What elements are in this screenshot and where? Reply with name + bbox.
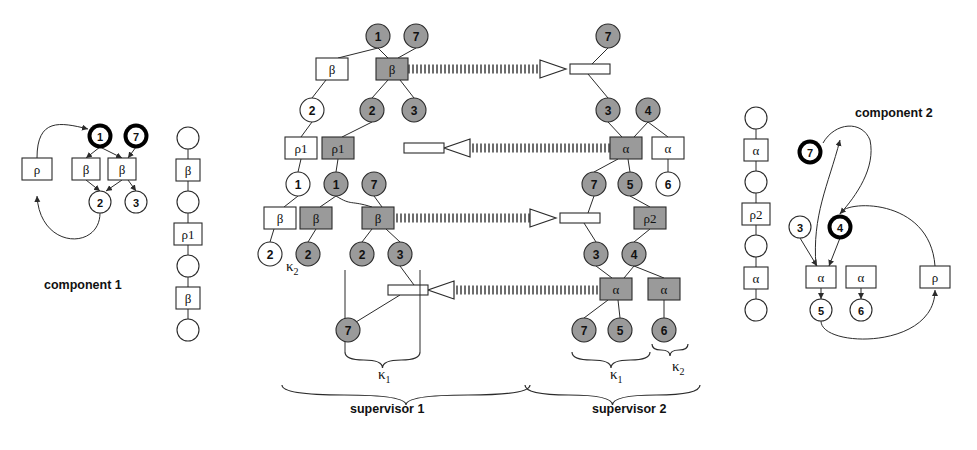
svg-text:ρ1: ρ1 <box>182 227 195 242</box>
graph-node-s1-n7-gray[interactable]: 7 <box>362 172 386 196</box>
graph-node-s1-n1-white[interactable]: 1 <box>286 172 310 196</box>
graph-node-s2-n7-top[interactable]: 7 <box>596 24 620 48</box>
svg-text:β: β <box>277 211 284 226</box>
graph-box-c2-alpha-left[interactable]: α <box>806 266 836 288</box>
graph-box-s1-beta-white-bot[interactable]: β <box>264 207 296 229</box>
graph-node-s2-n7-low[interactable]: 7 <box>572 318 596 342</box>
graph-box-s1-beta-gray-mid[interactable]: β <box>362 207 394 229</box>
svg-text:4: 4 <box>631 248 638 262</box>
graph-box-s1-rho1-gray[interactable]: ρ1 <box>322 137 354 159</box>
svg-text:β: β <box>313 211 320 226</box>
chain-right-circle-0[interactable] <box>745 107 767 129</box>
svg-text:7: 7 <box>605 30 612 44</box>
graph-node-s1-n1-gray[interactable]: 1 <box>324 172 348 196</box>
graph-node-s2-n6-low[interactable]: 6 <box>652 318 676 342</box>
port-port-s2-top[interactable] <box>570 64 610 74</box>
graph-box-s2-alpha-gray-bot2[interactable]: α <box>648 278 680 300</box>
graph-node-s1-n1-top[interactable]: 1 <box>366 24 390 48</box>
chain-left-circle-0[interactable] <box>177 127 199 149</box>
graph-node-s1-n2-gray[interactable]: 2 <box>360 98 384 122</box>
svg-text:β: β <box>375 211 382 226</box>
graph-node-s2-n6-white[interactable]: 6 <box>656 172 680 196</box>
graph-node-s1-n2-gray-bot[interactable]: 2 <box>296 242 320 266</box>
chain-right-circle-6[interactable] <box>745 299 767 321</box>
graph-node-s1-n3-gray[interactable]: 3 <box>402 98 426 122</box>
svg-text:α: α <box>858 270 865 285</box>
graph-box-s2-rho2-gray[interactable]: ρ2 <box>634 207 666 229</box>
port-port-s2-mid[interactable] <box>560 213 600 223</box>
svg-text:β: β <box>389 62 396 77</box>
graph-box-s1-beta-gray-bot[interactable]: β <box>300 207 332 229</box>
diagram-canvas: βρ1βαρ2αρββ1723ββρ1ρ1βββ1722311722237ααρ… <box>0 0 977 450</box>
svg-text:β: β <box>185 291 192 306</box>
chain-right: αρ2α <box>742 107 770 321</box>
graph-node-s2-n4-top[interactable]: 4 <box>636 98 660 122</box>
chain-left-circle-4[interactable] <box>177 255 199 277</box>
svg-text:5: 5 <box>818 305 824 317</box>
caption-component-2: component 2 <box>855 106 933 120</box>
graph-node-s2-n7-mid[interactable]: 7 <box>582 172 606 196</box>
graph-box-c2-alpha-right[interactable]: α <box>846 266 876 288</box>
graph-node-node-7[interactable]: 7 <box>124 124 149 149</box>
svg-text:α: α <box>623 141 630 156</box>
graph-node-s1-n2-white[interactable]: 2 <box>300 98 324 122</box>
graph-node-c2-node-5[interactable]: 5 <box>810 299 832 321</box>
svg-text:1: 1 <box>333 178 340 192</box>
svg-text:β: β <box>119 162 126 177</box>
graph-node-node-1[interactable]: 1 <box>88 124 113 149</box>
caption-supervisor-1: supervisor 1 <box>350 402 424 416</box>
graph-node-s1-n3-gray-low[interactable]: 3 <box>388 242 412 266</box>
chain-left-circle-2[interactable] <box>177 191 199 213</box>
svg-text:1: 1 <box>295 178 302 192</box>
graph-box-beta-box-left[interactable]: β <box>72 158 100 180</box>
graph-node-s2-n3-bot[interactable]: 3 <box>584 242 608 266</box>
graph-box-beta-box-right[interactable]: β <box>108 158 136 180</box>
graph-node-s2-n5-mid[interactable]: 5 <box>618 172 642 196</box>
chain-right-circle-4[interactable] <box>745 235 767 257</box>
edge-layer <box>37 48 935 339</box>
svg-text:3: 3 <box>397 248 404 262</box>
graph-node-node-3[interactable]: 3 <box>125 191 147 213</box>
diagram-graphics: βρ1βαρ2αρββ1723ββρ1ρ1βββ1722311722237ααρ… <box>0 0 977 450</box>
graph-node-s2-n3-top[interactable]: 3 <box>596 98 620 122</box>
caption-component-1: component 1 <box>44 278 122 292</box>
port-port-s1-low[interactable] <box>388 285 428 295</box>
graph-node-c2-node-7[interactable]: 7 <box>798 140 823 165</box>
svg-text:6: 6 <box>858 305 864 317</box>
svg-text:ρ2: ρ2 <box>750 207 763 222</box>
graph-node-s1-n2-white-bot[interactable]: 2 <box>258 242 282 266</box>
graph-box-s2-alpha-white-top[interactable]: α <box>652 137 684 159</box>
graph-node-s2-n4-bot[interactable]: 4 <box>622 242 646 266</box>
graph-box-s2-alpha-gray-top[interactable]: α <box>610 137 642 159</box>
svg-text:α: α <box>665 141 672 156</box>
graph-box-s1-rho1-white[interactable]: ρ1 <box>285 137 317 159</box>
port-port-s1-mid[interactable] <box>404 143 444 153</box>
graph-node-c2-node-3[interactable]: 3 <box>789 216 811 238</box>
graph-node-s1-n7-gray-low[interactable]: 7 <box>336 318 360 342</box>
channel-channel-2-left <box>444 139 610 157</box>
graph-box-rho-box[interactable]: ρ <box>22 158 52 180</box>
svg-text:ρ1: ρ1 <box>295 141 308 156</box>
chain-right-circle-2[interactable] <box>745 171 767 193</box>
label-kappa-2-sup2: κ2 <box>672 358 685 377</box>
svg-text:7: 7 <box>371 178 378 192</box>
channel-layer <box>388 60 610 299</box>
svg-text:β: β <box>329 62 336 77</box>
graph-node-s1-n2-gray-low[interactable]: 2 <box>350 242 374 266</box>
graph-node-node-2[interactable]: 2 <box>89 191 111 213</box>
chain-left-circle-6[interactable] <box>177 319 199 341</box>
svg-text:7: 7 <box>807 147 813 159</box>
svg-text:3: 3 <box>133 197 139 209</box>
svg-text:α: α <box>613 282 620 297</box>
graph-node-s2-n5-low[interactable]: 5 <box>608 318 632 342</box>
graph-box-s1-beta-white-top[interactable]: β <box>316 58 348 80</box>
graph-box-c2-rho[interactable]: ρ <box>920 266 950 288</box>
graph-box-s2-alpha-gray-bot[interactable]: α <box>600 278 632 300</box>
svg-text:5: 5 <box>627 178 634 192</box>
graph-node-c2-node-4[interactable]: 4 <box>828 215 853 240</box>
graph-box-s1-beta-gray-top[interactable]: β <box>376 58 408 80</box>
graph-node-s1-n7-top[interactable]: 7 <box>404 24 428 48</box>
chain-left: βρ1β <box>174 127 202 341</box>
svg-text:1: 1 <box>375 30 382 44</box>
graph-node-c2-node-6[interactable]: 6 <box>850 299 872 321</box>
